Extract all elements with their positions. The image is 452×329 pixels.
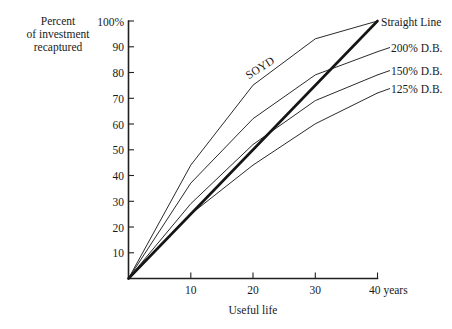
y-tick-label-80: 80 (113, 67, 125, 79)
series-label-200-db: 200% D.B. (391, 42, 443, 54)
series-line-straight-line (129, 21, 378, 279)
y-axis-ticks (129, 21, 135, 253)
x-tick-label-10: 10 (185, 284, 197, 296)
y-tick-label-70: 70 (113, 93, 125, 105)
chart-page: 100% 90 80 70 60 50 40 30 20 10 10 20 30… (0, 0, 452, 329)
x-axis-title: Useful life (229, 304, 278, 316)
leader-line-200-db (378, 48, 391, 52)
series-label-straight-line: Straight Line (381, 16, 441, 29)
y-tick-label-30: 30 (113, 196, 125, 208)
y-axis-title-line-2: of investment (27, 28, 91, 40)
series-label-soyd: SOYD (243, 54, 276, 81)
y-tick-label-20: 20 (113, 222, 125, 234)
leader-line-125-db (378, 89, 391, 94)
y-axis-title-line-1: Percent (41, 15, 76, 27)
y-tick-label-50: 50 (113, 144, 125, 156)
series-label-125-db: 125% D.B. (391, 83, 443, 95)
y-tick-label-60: 60 (113, 119, 125, 131)
series-line-125-db (129, 93, 378, 279)
leader-line-150-db (378, 71, 391, 75)
x-tick-label-20: 20 (247, 284, 259, 296)
y-tick-label-90: 90 (113, 41, 125, 53)
x-tick-label-40-years: 40 years (369, 284, 408, 297)
y-tick-label-10: 10 (113, 247, 125, 259)
y-axis-title-line-3: recaptured (34, 41, 83, 54)
x-tick-label-30: 30 (310, 284, 322, 296)
series-label-soyd-group: SOYD (243, 54, 276, 81)
investment-recapture-chart: 100% 90 80 70 60 50 40 30 20 10 10 20 30… (0, 0, 452, 329)
x-axis-ticks (191, 273, 378, 279)
y-tick-label-100: 100% (97, 16, 124, 28)
series-label-150-db: 150% D.B. (391, 65, 443, 77)
y-tick-label-40: 40 (113, 170, 125, 182)
series-line-150-db (129, 75, 378, 279)
